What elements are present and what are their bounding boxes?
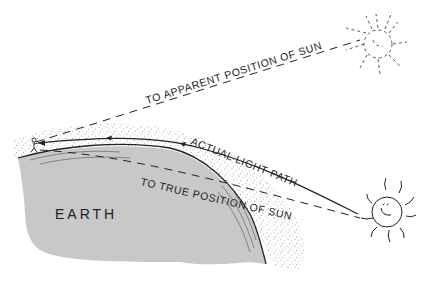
refraction-diagram: TO APPARENT POSITION OF SUN ACTUAL LIGHT… xyxy=(0,0,431,284)
apparent-position-label: TO APPARENT POSITION OF SUN xyxy=(144,39,323,106)
true-sun-icon xyxy=(361,178,416,242)
apparent-sun-icon xyxy=(346,12,407,74)
earth-label: EARTH xyxy=(55,206,117,222)
apparent-direction-line xyxy=(36,40,360,142)
